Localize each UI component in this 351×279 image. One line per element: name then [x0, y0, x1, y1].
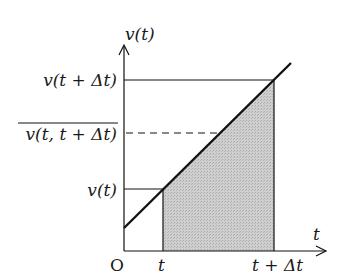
y-axis-label: v(t) — [125, 24, 155, 44]
y-tick-avg-velocity: v(t, t + Δt) — [26, 124, 118, 144]
y-tick-v-t: v(t) — [87, 180, 117, 200]
shaded-area — [163, 80, 274, 251]
velocity-time-diagram: v(t) t O t t + Δt v(t + Δt) v(t, t + Δt)… — [0, 0, 351, 279]
x-tick-t: t — [158, 255, 165, 275]
y-tick-v-t-dt: v(t + Δt) — [43, 70, 117, 90]
x-tick-t-dt: t + Δt — [252, 255, 303, 275]
origin-label: O — [110, 255, 124, 275]
x-axis-label: t — [313, 224, 320, 244]
